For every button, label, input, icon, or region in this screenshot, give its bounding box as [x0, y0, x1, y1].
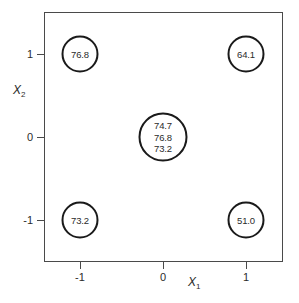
x-tick-mark	[163, 262, 164, 269]
x-tick-label: -1	[65, 271, 95, 283]
design-point-value: 74.7	[154, 120, 172, 132]
design-point-top-left: 76.8	[62, 36, 99, 73]
y-tick-mark	[37, 54, 44, 55]
x-tick-mark	[80, 262, 81, 269]
x-tick-label: 0	[148, 271, 178, 283]
design-point-value: 64.1	[237, 49, 255, 60]
y-tick-label: 0	[7, 131, 33, 143]
y-axis-title-subscript: 2	[21, 90, 25, 99]
x-tick-mark	[246, 262, 247, 269]
y-tick-label: -1	[7, 214, 33, 226]
design-point-bottom-left: 73.2	[62, 202, 99, 239]
y-axis-title-text: X	[13, 83, 21, 97]
factorial-design-plot: 1 0 -1 -1 0 1 X2 X1 76.8 64.1 74.7 76.8 …	[0, 0, 299, 303]
y-tick-mark	[37, 137, 44, 138]
design-point-value: 76.8	[71, 49, 89, 60]
design-point-value: 51.0	[237, 215, 255, 226]
design-point-top-right: 64.1	[228, 36, 265, 73]
y-axis-title: X2	[13, 83, 25, 99]
x-axis-title-subscript: 1	[196, 282, 200, 291]
design-point-value: 73.2	[154, 143, 172, 155]
design-point-value: 73.2	[71, 215, 89, 226]
y-tick-mark	[37, 220, 44, 221]
design-point-value: 76.8	[154, 131, 172, 143]
x-tick-label: 1	[231, 271, 261, 283]
x-axis-title: X1	[188, 275, 200, 291]
x-axis-title-text: X	[188, 275, 196, 289]
design-point-bottom-right: 51.0	[228, 202, 265, 239]
y-tick-label: 1	[7, 48, 33, 60]
design-point-center: 74.7 76.8 73.2	[139, 113, 188, 162]
